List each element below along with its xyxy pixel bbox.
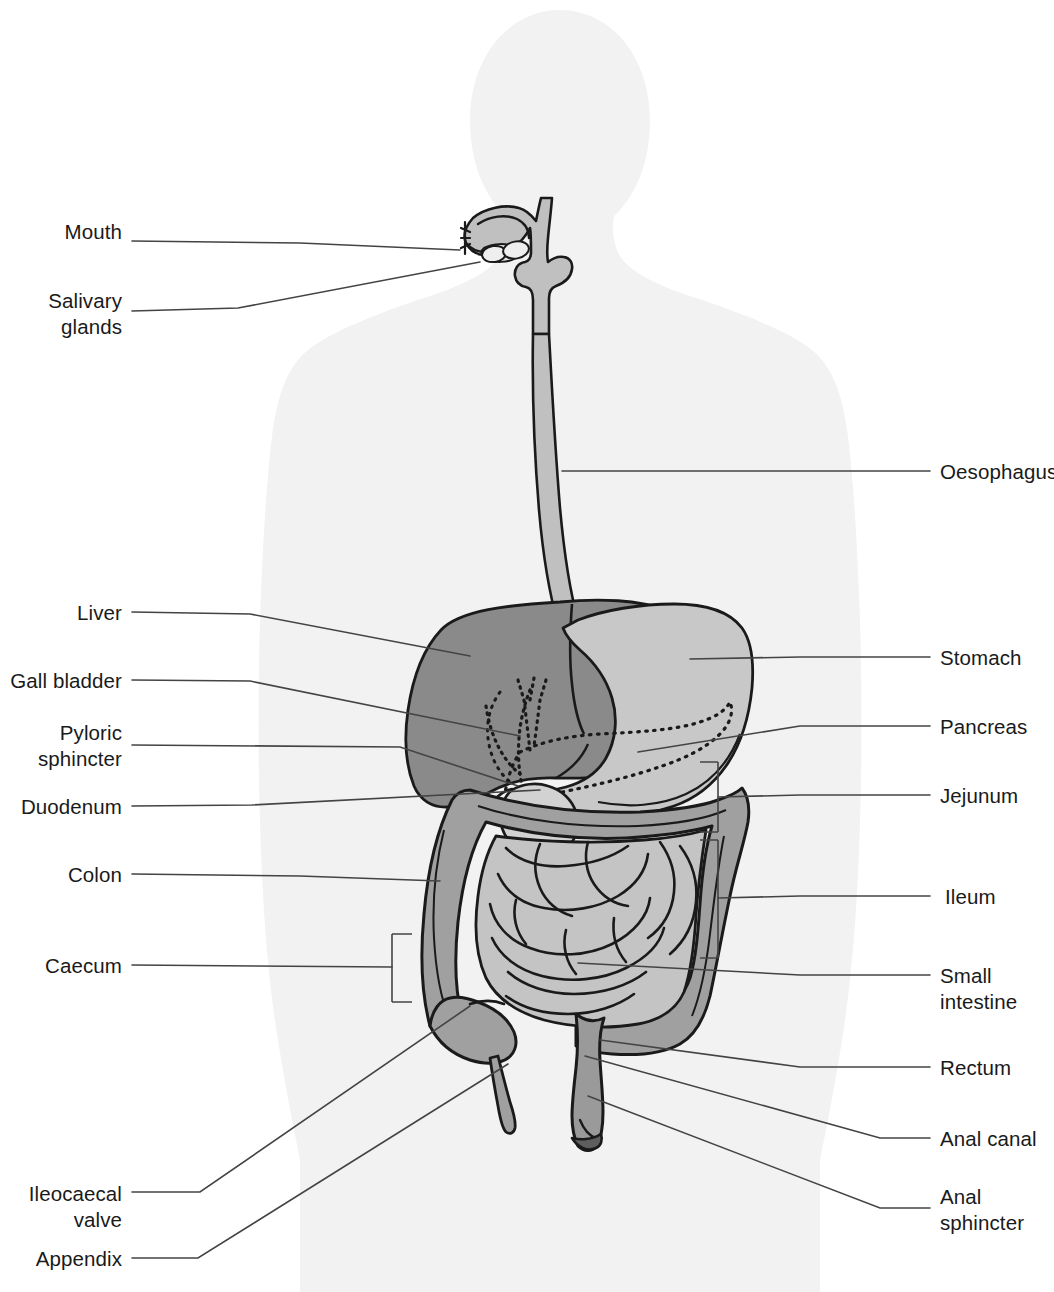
label-pancreas: Pancreas: [940, 714, 1054, 740]
label-liver: Liver: [0, 600, 122, 626]
label-rectum: Rectum: [940, 1055, 1054, 1081]
leader-line-mouth: [132, 241, 460, 250]
label-ileocaecal-valve: Ileocaecal valve: [0, 1181, 122, 1233]
label-pyloric-sphincter: Pyloric sphincter: [0, 720, 122, 772]
label-mouth: Mouth: [0, 219, 122, 245]
label-caecum: Caecum: [0, 953, 122, 979]
digestive-system-illustration: [0, 0, 1054, 1292]
label-oesophagus: Oesophagus: [940, 459, 1054, 485]
label-anal-sphincter: Anal sphincter: [940, 1184, 1054, 1236]
small-intestine-organ: [476, 830, 706, 1027]
label-jejunum: Jejunum: [940, 783, 1054, 809]
label-gall-bladder: Gall bladder: [0, 668, 122, 694]
rectum-organ: [572, 1014, 604, 1151]
label-colon: Colon: [0, 862, 122, 888]
label-anal-canal: Anal canal: [940, 1126, 1054, 1152]
label-ileum: Ileum: [945, 884, 1054, 910]
label-duodenum: Duodenum: [0, 794, 122, 820]
label-small-intestine: Small intestine: [940, 963, 1054, 1015]
label-salivary-glands: Salivary glands: [0, 288, 122, 340]
digestive-system-figure: Mouth Salivary glands Liver Gall bladder…: [0, 0, 1054, 1292]
label-stomach: Stomach: [940, 645, 1054, 671]
label-appendix: Appendix: [0, 1246, 122, 1272]
